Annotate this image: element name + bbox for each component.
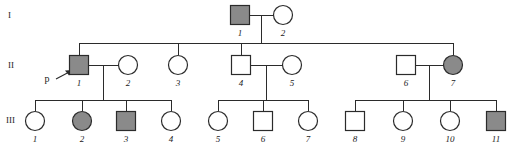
individual-symbol-i-2-female-unaffected[interactable] [274,6,293,25]
proband-label-group: p [45,73,50,84]
individual-symbol-iii-3-male-affected[interactable] [117,112,136,131]
individual-id-label-iii-2: 2 [80,134,85,144]
pedigree-chart: 1212345671234567891011 IIIIII p [0,0,513,150]
individual-id-label-iii-3: 3 [123,134,129,144]
generation-label-i: I [8,10,11,20]
pedigree-diagram: 1212345671234567891011 IIIIII p [0,0,513,150]
individual-symbol-iii-8-male-unaffected[interactable] [346,112,365,131]
individual-id-label-iii-9: 9 [401,134,406,144]
generation-labels-group: IIIIII [6,10,15,125]
individual-symbol-iii-10-female-unaffected[interactable] [441,112,460,131]
individual-symbol-iii-9-female-unaffected[interactable] [394,112,413,131]
individual-id-label-iii-11: 11 [492,134,500,144]
individual-symbol-ii-1-male-affected[interactable] [70,56,89,75]
individual-id-label-i-2: 2 [281,28,286,38]
proband-label: p [45,73,50,84]
individual-symbol-ii-6-male-unaffected[interactable] [397,56,416,75]
individual-id-label-ii-3: 3 [175,78,181,88]
individual-symbol-iii-11-male-affected[interactable] [487,112,506,131]
individual-id-label-iii-4: 4 [169,134,174,144]
individual-id-label-ii-6: 6 [404,78,409,88]
individual-id-label-i-1: 1 [238,28,243,38]
individual-id-label-iii-6: 6 [261,134,266,144]
individual-id-label-iii-7: 7 [306,134,311,144]
individual-symbol-ii-7-female-affected[interactable] [444,56,463,75]
individual-symbol-iii-1-female-unaffected[interactable] [26,112,45,131]
individual-id-label-ii-1: 1 [77,78,82,88]
individual-id-label-ii-4: 4 [239,78,244,88]
individual-symbol-ii-2-female-unaffected[interactable] [119,56,138,75]
individual-symbol-iii-2-female-affected[interactable] [73,112,92,131]
connector-lines-group [35,15,496,111]
individual-symbol-iii-7-female-unaffected[interactable] [299,112,318,131]
individual-symbol-ii-3-female-unaffected[interactable] [169,56,188,75]
individual-id-label-iii-8: 8 [353,134,358,144]
individual-id-label-ii-7: 7 [451,78,456,88]
individual-id-label-ii-5: 5 [290,78,295,88]
individual-id-label-ii-2: 2 [126,78,131,88]
individual-symbol-i-1-male-affected[interactable] [231,6,250,25]
individual-id-label-iii-1: 1 [33,134,38,144]
individual-symbol-iii-6-male-unaffected[interactable] [254,112,273,131]
individual-symbol-iii-5-female-unaffected[interactable] [209,112,228,131]
generation-label-ii: II [8,60,14,70]
individual-symbol-iii-4-female-unaffected[interactable] [162,112,181,131]
individual-id-label-iii-5: 5 [216,134,221,144]
generation-label-iii: III [6,115,15,125]
individual-symbol-ii-5-female-unaffected[interactable] [283,56,302,75]
individual-symbol-ii-4-male-unaffected[interactable] [232,56,251,75]
individual-id-label-iii-10: 10 [446,134,456,144]
